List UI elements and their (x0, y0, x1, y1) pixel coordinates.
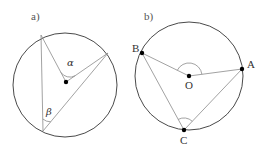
point-B (140, 51, 144, 55)
panel-a-label: a) (31, 10, 40, 23)
beta-label: β (45, 106, 52, 117)
radius-OA (189, 69, 242, 76)
point-A (240, 67, 244, 71)
label-O: O (185, 79, 193, 91)
label-C: C (180, 134, 187, 146)
center-point-a (64, 80, 68, 84)
diagram-canvas: a) α β b) B A C O (0, 0, 261, 152)
panel-b: b) B A C O (132, 10, 255, 146)
angle-AOB-arc (177, 63, 202, 74)
point-C (182, 128, 186, 132)
circle-a (13, 33, 117, 137)
angle-ACB-arc (178, 118, 192, 121)
radius-OB (142, 53, 189, 76)
alpha-label: α (67, 57, 74, 68)
label-B: B (132, 42, 139, 54)
label-A: A (247, 58, 255, 70)
chord-BC (142, 53, 184, 130)
chord-bottom-right (43, 53, 108, 131)
panel-a: a) α β (13, 10, 117, 137)
radius-top (41, 35, 66, 82)
panel-b-label: b) (144, 10, 154, 23)
point-O (187, 74, 191, 78)
chord-top-bottom (41, 35, 43, 131)
beta-angle-arc (43, 119, 51, 122)
